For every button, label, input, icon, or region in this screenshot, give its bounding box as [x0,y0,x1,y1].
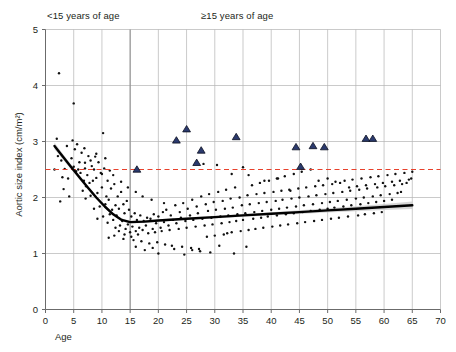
data-point [313,220,315,222]
data-point [363,196,365,198]
data-point [70,157,72,159]
data-point [152,247,154,249]
data-point [382,182,384,184]
data-point [356,185,358,187]
data-point [386,174,388,176]
data-point [96,192,98,194]
data-point [222,200,224,202]
data-point [259,182,261,184]
data-point [127,186,129,188]
data-point [182,202,184,204]
data-point [148,242,150,244]
data-point [84,162,86,164]
dissection-markers-layer [133,126,377,173]
data-point [372,195,374,197]
data-point [128,209,130,211]
data-point [334,181,336,183]
data-point [137,233,139,235]
data-point [315,194,317,196]
data-point [258,202,260,204]
data-point [185,227,187,229]
data-point [157,215,159,217]
data-point [197,212,199,214]
x-tick-label: 70 [435,315,446,326]
data-point [228,221,230,223]
data-point [113,183,115,185]
data-point [91,165,93,167]
x-tick-label: 55 [351,315,362,326]
dissection-marker [369,135,377,141]
data-point [393,184,395,186]
data-point [183,253,185,255]
data-point [342,205,344,207]
data-point [101,173,103,175]
data-point [145,224,147,226]
data-point [322,184,324,186]
data-point [231,231,233,233]
data-point [79,172,81,174]
data-point [200,195,202,197]
data-point [134,212,136,214]
data-point [253,211,255,213]
x-tick-label: 25 [181,315,192,326]
data-point [281,199,283,201]
data-point [165,209,167,211]
data-point [120,191,122,193]
dissection-marker [292,143,300,149]
data-point [324,193,326,195]
data-point [194,225,196,227]
confidence-band-layer [55,143,413,224]
data-point [241,204,243,206]
y-tick-label: 5 [33,24,38,35]
data-point [405,182,407,184]
data-point [157,252,159,254]
data-point [298,196,300,198]
data-point [163,202,165,204]
data-point [57,155,59,157]
data-point [339,182,341,184]
data-point [246,194,248,196]
data-point [391,199,393,201]
data-point [347,215,349,217]
data-point [168,229,170,231]
data-point [284,175,286,177]
data-point [153,213,155,215]
data-point [266,201,268,203]
data-point [191,199,193,201]
data-point [120,181,122,183]
data-point [141,229,143,231]
dissection-marker [173,137,181,143]
data-point [389,193,391,195]
group-label-15-and-over: ≥15 years of age [201,10,273,21]
data-point [122,203,124,205]
dissection-marker [197,147,205,154]
data-point [275,200,277,202]
y-axis-label: Aortic size index (cm/m²) [13,85,24,245]
data-point [127,223,129,225]
data-point [66,145,68,147]
data-point [271,225,273,227]
data-point [199,250,201,252]
data-point [144,249,146,251]
data-point [179,211,181,213]
dissection-marker [309,142,317,148]
data-point [161,230,163,232]
data-point [312,203,314,205]
data-point [74,148,76,150]
y-tick-label: 4 [33,80,38,91]
data-point [113,234,115,236]
data-point [76,143,78,145]
data-point [367,202,369,204]
data-point [105,195,107,197]
data-point [337,200,339,202]
data-point [139,214,141,216]
data-point [278,208,280,210]
data-point [178,228,180,230]
scatter-plot-canvas: 0510152025303540455055606570012345 [0,0,456,352]
x-tick-label: 35 [238,315,249,326]
data-point [260,217,262,219]
data-point [146,217,148,219]
data-point [155,222,157,224]
data-point [223,233,225,235]
data-point [252,218,254,220]
